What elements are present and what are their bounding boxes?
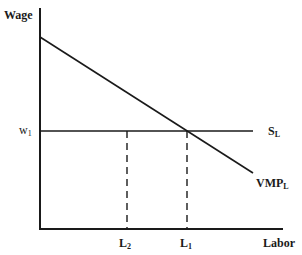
l2-sub: 2 xyxy=(127,242,131,251)
y-axis-label: Wage xyxy=(4,9,33,21)
supply-base: S xyxy=(268,124,275,138)
wage-level-sub: 1 xyxy=(28,129,32,138)
l1-label: L1 xyxy=(180,237,192,253)
demand-curve-line xyxy=(40,37,253,173)
supply-curve-label: SL xyxy=(268,125,280,141)
demand-curve-label: VMPL xyxy=(256,177,289,193)
supply-sub: L xyxy=(275,130,280,139)
demand-base: VMP xyxy=(256,176,283,190)
wage-level-base: w xyxy=(19,123,28,137)
wage-level-label: w1 xyxy=(19,124,32,140)
x-axis-label: Labor xyxy=(263,237,295,249)
l1-base: L xyxy=(180,236,188,250)
l1-sub: 1 xyxy=(188,242,192,251)
diagram-canvas xyxy=(0,0,302,255)
demand-sub: L xyxy=(283,182,288,191)
l2-base: L xyxy=(119,236,127,250)
l2-label: L2 xyxy=(119,237,131,253)
